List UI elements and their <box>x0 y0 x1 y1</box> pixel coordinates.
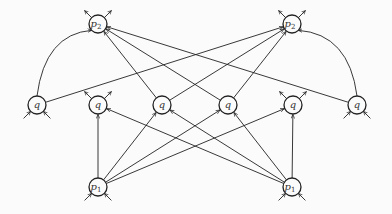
node-label: q <box>354 99 360 110</box>
node-label: q <box>290 99 296 110</box>
edge-q6-to-p2L <box>107 27 348 102</box>
node-q6: q <box>348 96 366 114</box>
node-q3: q <box>153 96 171 114</box>
outgoing-stub-arrow <box>299 92 306 99</box>
incoming-stub-arrow <box>24 111 31 118</box>
node-p2L: p2 <box>89 15 107 33</box>
edge-p1R-to-q3 <box>170 110 284 182</box>
node-label: q <box>34 99 40 110</box>
node-q2: q <box>89 96 107 114</box>
node-p1L: p1 <box>89 178 107 196</box>
node-label: q <box>95 99 101 110</box>
edge-p1R-to-q4 <box>234 112 287 179</box>
edge-p1R-to-q5 <box>292 114 293 178</box>
incoming-stub-arrow <box>104 193 111 200</box>
incoming-stub-arrow <box>298 193 305 200</box>
incoming-stub-arrow <box>43 111 50 118</box>
incoming-stub-arrow <box>344 111 351 118</box>
edge-q1-to-p2L <box>37 30 92 96</box>
edge-p1L-to-q3 <box>104 112 157 179</box>
node-q5: q <box>284 96 302 114</box>
node-p2R: p2 <box>283 15 301 33</box>
incoming-stub-arrow <box>85 193 92 200</box>
edge-q6-to-p2R <box>298 30 357 96</box>
node-p1R: p1 <box>283 178 301 196</box>
edge-q4-to-p2R <box>234 31 287 97</box>
outgoing-stub-arrow <box>104 11 111 18</box>
edge-q3-to-p2L <box>104 31 157 97</box>
outgoing-stub-arrow <box>85 92 92 99</box>
graph-diagram: p2p2qqqqqqp1p1 <box>0 0 392 214</box>
outgoing-stub-arrow <box>85 11 92 18</box>
incoming-stub-arrow <box>279 193 286 200</box>
incoming-stub-arrow <box>363 111 370 118</box>
node-q1: q <box>28 96 46 114</box>
node-label: q <box>159 99 165 110</box>
stub-layer <box>24 11 371 201</box>
edge-q3-to-p2R <box>170 29 284 100</box>
outgoing-stub-arrow <box>298 11 305 18</box>
edge-q1-to-p2R <box>46 27 283 102</box>
edge-layer <box>37 27 357 184</box>
outgoing-stub-arrow <box>104 92 111 99</box>
node-label: q <box>225 99 231 110</box>
outgoing-stub-arrow <box>279 11 286 18</box>
node-q4: q <box>219 96 237 114</box>
node-layer: p2p2qqqqqqp1p1 <box>28 15 366 196</box>
edge-p1L-to-q4 <box>106 110 220 182</box>
outgoing-stub-arrow <box>280 92 287 99</box>
